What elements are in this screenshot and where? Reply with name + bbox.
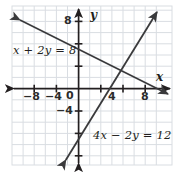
equation-label-line-1: x + 2y = 8 [13, 45, 77, 57]
y-tick-label-8: 8 [64, 15, 72, 26]
x-tick-label-8: 8 [141, 91, 149, 102]
x-axis-label: x [156, 71, 163, 83]
x-tick-label--4: −4 [45, 91, 62, 102]
y-tick-label--4: −4 [56, 105, 73, 116]
x-tick-label--8: −8 [23, 91, 40, 102]
x-tick-label-4: 4 [108, 91, 116, 102]
origin-label: 0 [66, 90, 74, 101]
graph-figure: y x 0 −8 −4 4 8 8 −4 x + 2y = 8 4x − 2y … [0, 0, 178, 179]
y-axis-label: y [90, 9, 97, 21]
equation-label-line-2: 4x − 2y = 12 [93, 130, 172, 142]
